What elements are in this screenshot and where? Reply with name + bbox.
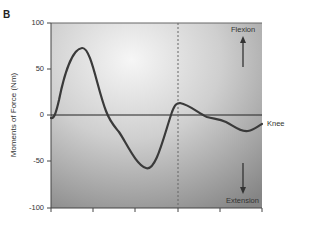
extension-label: Extension [226, 196, 259, 205]
x-ticks [51, 208, 262, 212]
series-label-knee: Knee [267, 119, 285, 128]
y-ticks [47, 23, 51, 208]
flexion-label: Flexion [231, 25, 255, 34]
